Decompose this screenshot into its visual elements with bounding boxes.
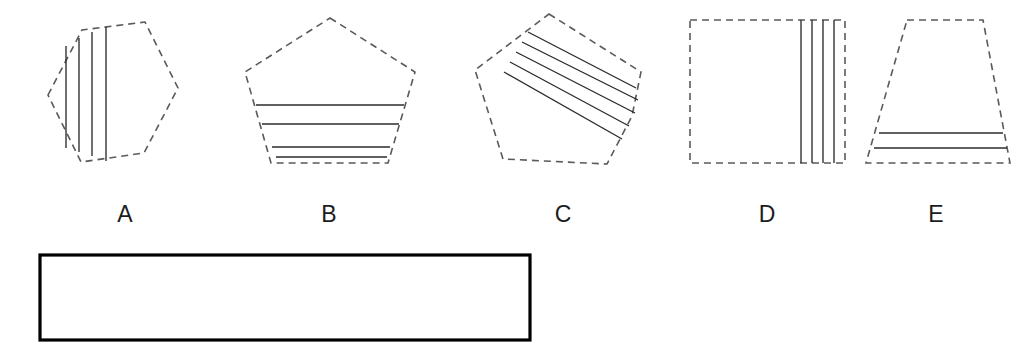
shape-label-c: C xyxy=(533,203,593,226)
shape-group-c xyxy=(475,14,641,164)
worksheet-page: A B C D E xyxy=(0,0,1036,358)
shape-group-b xyxy=(245,18,415,163)
shape-group-e xyxy=(866,20,1010,163)
answer-box[interactable] xyxy=(40,255,530,340)
shape-outline-d xyxy=(690,20,845,163)
shape-label-e: E xyxy=(906,203,966,226)
shape-outline-b xyxy=(245,18,415,163)
shape-label-a: A xyxy=(95,203,155,226)
hatch-line-c-1 xyxy=(528,32,636,88)
hatch-line-c-3 xyxy=(516,52,635,113)
shapes-figure xyxy=(0,0,1036,358)
shape-label-d: D xyxy=(737,203,797,226)
shape-group-d xyxy=(690,20,845,163)
shape-label-b: B xyxy=(299,203,359,226)
shape-outline-a xyxy=(48,22,178,162)
shape-group-a xyxy=(48,22,178,162)
hatch-line-c-5 xyxy=(504,72,622,139)
hatch-line-c-2 xyxy=(522,42,638,100)
hatch-line-c-4 xyxy=(510,62,629,126)
shape-outline-e xyxy=(866,20,1010,163)
